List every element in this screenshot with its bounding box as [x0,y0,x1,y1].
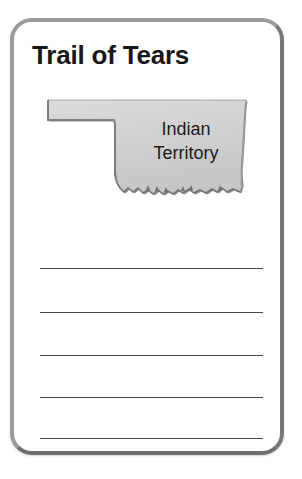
note-card [10,18,284,455]
page-title: Trail of Tears [32,40,189,70]
writing-line-3 [40,355,263,356]
writing-line-2 [40,312,263,313]
map-region-label: Indian Territory [134,117,238,165]
writing-line-5 [40,438,263,439]
writing-line-1 [40,268,263,269]
card-sheen [14,22,280,451]
map-label-line-1: Indian [134,117,238,141]
map-label-line-2: Territory [134,141,238,165]
writing-line-4 [40,397,263,398]
worksheet-page: Trail of Tears India [0,0,302,479]
